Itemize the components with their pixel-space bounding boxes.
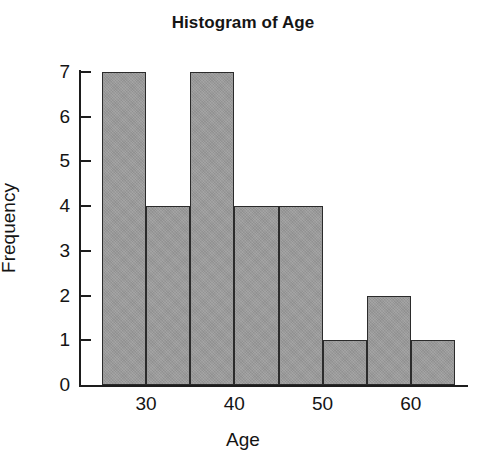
y-axis-tick <box>81 295 91 297</box>
x-axis-tick-label: 50 <box>293 393 353 415</box>
y-axis-tick <box>81 116 91 118</box>
histogram-bar <box>323 340 367 385</box>
y-axis-tick-label-wrap: 1 <box>48 330 70 349</box>
y-axis-tick-label-wrap: 3 <box>48 241 70 260</box>
y-axis-tick-label: 3 <box>48 241 70 260</box>
histogram-bar <box>190 72 234 385</box>
y-axis-tick <box>81 205 91 207</box>
histogram-bar <box>411 340 455 385</box>
histogram-bar <box>234 206 278 385</box>
x-axis-tick-label: 30 <box>116 393 176 415</box>
y-axis-tick-label: 7 <box>48 62 70 81</box>
y-axis-tick-label-wrap: 7 <box>48 62 70 81</box>
y-axis-tick-label-wrap: 4 <box>48 196 70 215</box>
y-axis-tick-label: 5 <box>48 151 70 170</box>
x-axis-tick-label: 40 <box>204 393 264 415</box>
y-axis-tick-label-wrap: 5 <box>48 151 70 170</box>
plot-area <box>102 72 455 385</box>
y-axis-tick-label: 0 <box>48 375 70 394</box>
histogram-figure: Histogram of Age 01234567 30405060 Frequ… <box>0 0 486 469</box>
y-axis-title: Frequency <box>0 128 20 328</box>
histogram-bar <box>146 206 190 385</box>
y-axis-tick <box>81 339 91 341</box>
y-axis-tick-label: 2 <box>48 286 70 305</box>
histogram-bar <box>102 72 146 385</box>
y-axis-tick <box>81 250 91 252</box>
x-axis-title: Age <box>0 429 486 451</box>
y-axis-tick-label-wrap: 2 <box>48 286 70 305</box>
chart-title: Histogram of Age <box>0 13 486 33</box>
y-axis-tick-label: 6 <box>48 107 70 126</box>
y-axis-tick-label: 1 <box>48 330 70 349</box>
y-axis-tick-label-wrap: 0 <box>48 375 70 394</box>
y-axis-tick <box>81 71 91 73</box>
y-axis-tick-label-wrap: 6 <box>48 107 70 126</box>
x-axis-line <box>79 385 468 387</box>
histogram-bar <box>279 206 323 385</box>
y-axis-tick-label: 4 <box>48 196 70 215</box>
histogram-bar <box>367 296 411 385</box>
x-axis-tick-label: 60 <box>381 393 441 415</box>
y-axis-tick <box>81 160 91 162</box>
